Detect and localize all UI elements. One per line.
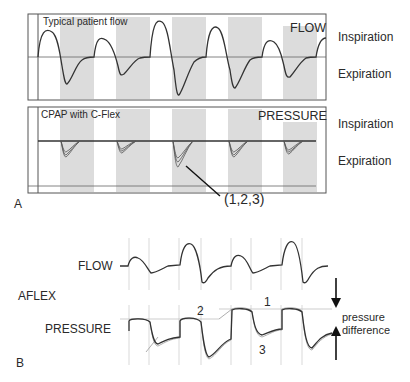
pressure-difference-label-1: pressure	[342, 312, 385, 323]
flow-signal-label: FLOW	[290, 22, 326, 35]
aflex-flow-trace	[120, 242, 328, 283]
aflex-label: AFLEX	[18, 290, 56, 302]
pressure-inspiration-label: Inspiration	[338, 118, 393, 130]
pressure-signal-label: PRESSURE	[258, 110, 327, 123]
annotation-2: 2	[197, 305, 204, 317]
callout-label: (1,2,3)	[224, 192, 264, 206]
panel-b-label: B	[16, 357, 24, 369]
flow-label: FLOW	[78, 260, 113, 272]
panel-a-label: A	[14, 198, 22, 210]
flow-inspiration-label: Inspiration	[338, 31, 393, 43]
pressure-difference-arrows	[331, 278, 341, 360]
pressure-expiration-label: Expiration	[338, 155, 391, 167]
aflex-panel	[120, 238, 341, 365]
pressure-label: PRESSURE	[45, 323, 111, 335]
flow-expiration-label: Expiration	[338, 68, 391, 80]
pressure-panel-title: CPAP with C-Flex	[41, 110, 120, 120]
aflex-pressure-alt	[129, 308, 332, 359]
annotation-3: 3	[259, 344, 266, 356]
pressure-difference-label-2: difference	[342, 325, 390, 336]
annotation-1: 1	[264, 296, 271, 308]
flow-panel-title: Typical patient flow	[43, 17, 128, 27]
aflex-pressure-trace	[129, 309, 332, 357]
